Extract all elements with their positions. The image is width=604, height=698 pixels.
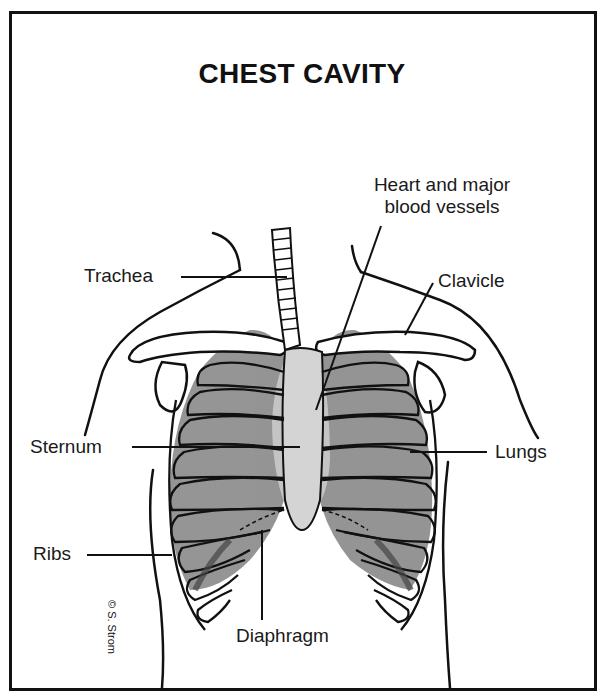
neck-left bbox=[213, 233, 240, 270]
label-diaphragm: Diaphragm bbox=[236, 625, 329, 647]
label-heart-line1: Heart and major bbox=[342, 174, 542, 196]
label-heart: Heart and major blood vessels bbox=[342, 174, 542, 218]
sternum bbox=[283, 348, 324, 530]
label-lungs: Lungs bbox=[495, 441, 547, 463]
chest-illustration bbox=[0, 0, 604, 698]
label-heart-line2: blood vessels bbox=[342, 196, 542, 218]
leader-clavicle bbox=[405, 283, 433, 335]
torso-left bbox=[150, 470, 163, 688]
label-sternum: Sternum bbox=[30, 436, 102, 458]
artist-signature: © S. Strom bbox=[106, 600, 118, 654]
label-trachea: Trachea bbox=[84, 265, 153, 287]
scapula-left bbox=[155, 362, 186, 411]
label-ribs: Ribs bbox=[33, 543, 71, 565]
label-clavicle: Clavicle bbox=[438, 270, 505, 292]
torso-right bbox=[443, 462, 450, 688]
neck-right bbox=[352, 246, 361, 272]
